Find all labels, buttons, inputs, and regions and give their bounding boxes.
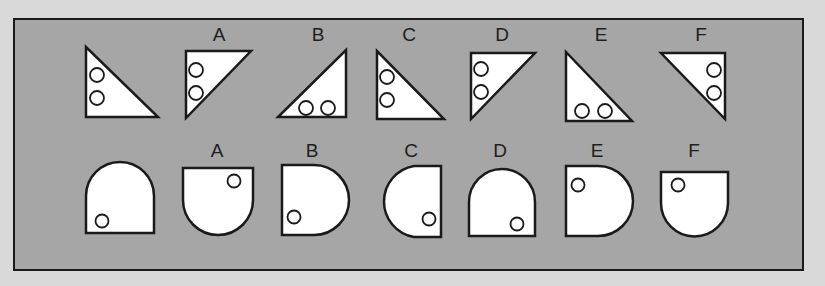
top-option-d-triangle[interactable] bbox=[471, 53, 535, 119]
bottom-option-e-shape[interactable] bbox=[566, 166, 633, 236]
bottom-option-c-shape[interactable] bbox=[384, 166, 441, 237]
top-option-f-triangle[interactable] bbox=[661, 53, 725, 119]
bottom-option-f-shape[interactable] bbox=[661, 172, 728, 237]
top-option-a-triangle[interactable] bbox=[186, 51, 251, 118]
puzzle-figures bbox=[0, 0, 825, 286]
top-reference-triangle bbox=[86, 47, 158, 117]
top-option-c-triangle[interactable] bbox=[377, 51, 444, 119]
bottom-option-b-shape[interactable] bbox=[282, 165, 349, 235]
top-option-b-triangle[interactable] bbox=[278, 50, 346, 117]
bottom-option-d-shape[interactable] bbox=[469, 169, 535, 236]
top-option-e-triangle[interactable] bbox=[566, 52, 632, 121]
bottom-reference-arch bbox=[86, 162, 154, 233]
bottom-option-a-shape[interactable] bbox=[183, 168, 253, 235]
